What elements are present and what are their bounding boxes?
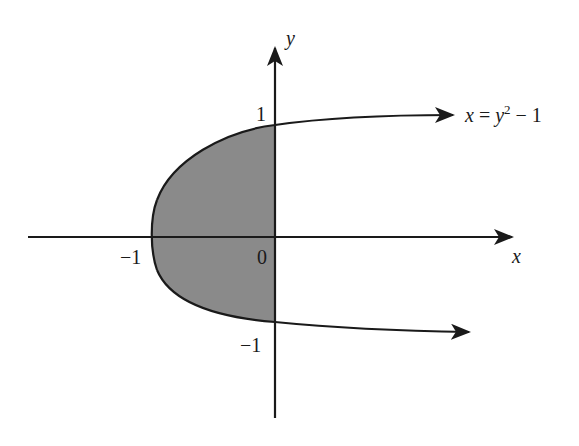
eq-equals: = <box>479 104 490 126</box>
tick-label-x-neg1: −1 <box>120 247 141 267</box>
y-axis-label: y <box>286 28 295 48</box>
tick-label-origin: 0 <box>257 247 267 267</box>
curve-equation-label: x = y2 − 1 <box>465 105 542 125</box>
eq-exponent: 2 <box>504 102 511 117</box>
eq-x: x <box>465 104 474 126</box>
tick-label-y-1: 1 <box>256 104 266 124</box>
eq-y: y <box>495 104 504 126</box>
parabola-diagram <box>0 0 579 446</box>
shaded-region <box>152 125 275 322</box>
tick-label-y-neg1: −1 <box>240 335 261 355</box>
eq-minus-one: − 1 <box>516 104 542 126</box>
x-axis-label: x <box>512 246 521 266</box>
